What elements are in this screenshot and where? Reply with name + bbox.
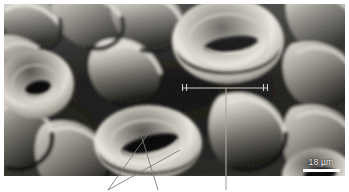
micrograph-canvas [4,4,345,176]
sem-figure: 18 µm [0,0,349,192]
scale-bar-label: 18 µm [299,157,343,167]
scale-bar-line [303,169,340,172]
sem-micrograph-image [4,4,345,176]
sem-grain-overlay [4,4,345,176]
scale-bar: 18 µm [299,157,343,174]
